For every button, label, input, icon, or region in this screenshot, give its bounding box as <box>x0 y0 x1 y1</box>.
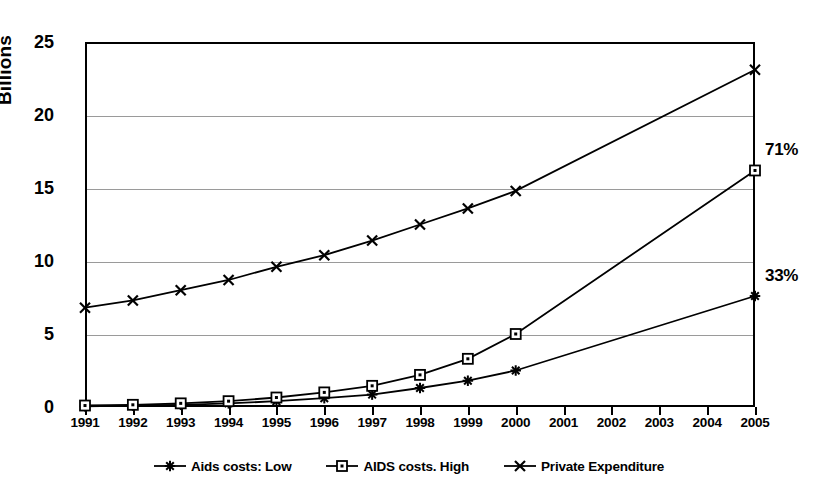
y-axis-tick-label: 20 <box>14 106 54 124</box>
y-axis-tick-label: 10 <box>14 252 54 270</box>
gridline <box>87 262 753 263</box>
x-axis-tick-mark <box>85 407 87 415</box>
legend-marker-x-icon <box>503 458 537 474</box>
x-axis-tick-mark <box>181 407 183 415</box>
plot-area <box>85 42 755 407</box>
x-axis-tick-mark <box>133 407 135 415</box>
x-axis-tick-mark <box>372 407 374 415</box>
legend-marker-square-icon <box>325 458 359 474</box>
x-axis-tick-mark <box>611 407 613 415</box>
y-axis-tick-label: 5 <box>14 325 54 343</box>
x-axis-tick-mark <box>755 407 757 415</box>
y-axis-tick-label: 15 <box>14 179 54 197</box>
x-axis-tick-mark <box>420 407 422 415</box>
data-point-marker-asterisk <box>165 461 176 472</box>
x-axis-tick-label: 2005 <box>725 415 785 430</box>
x-axis-tick-mark <box>516 407 518 415</box>
legend-item-0[interactable]: Aids costs: Low <box>153 458 292 474</box>
x-axis-tick-mark <box>229 407 231 415</box>
x-axis-tick-mark <box>564 407 566 415</box>
legend-item-1[interactable]: AIDS costs. High <box>325 458 469 474</box>
legend-marker-asterisk-icon <box>153 458 187 474</box>
legend-label: Private Expenditure <box>541 459 664 474</box>
legend-label: AIDS costs. High <box>363 459 469 474</box>
data-point-marker-square <box>337 461 347 471</box>
y-axis-tick-label: 25 <box>14 33 54 51</box>
x-axis-tick-mark <box>324 407 326 415</box>
x-axis-tick-mark <box>468 407 470 415</box>
legend-label: Aids costs: Low <box>191 459 292 474</box>
chart-figure: Billions 0510152025 19911992199319941995… <box>0 0 817 504</box>
x-axis-tick-mark <box>707 407 709 415</box>
chart-legend: Aids costs: LowAIDS costs. HighPrivate E… <box>0 458 817 474</box>
legend-item-2[interactable]: Private Expenditure <box>503 458 664 474</box>
annotation-71pct: 71% <box>765 140 798 160</box>
gridline <box>87 116 753 117</box>
x-axis-tick-mark <box>276 407 278 415</box>
x-axis-tick-mark <box>659 407 661 415</box>
y-axis-title: Billions <box>0 0 16 150</box>
y-axis-tick-label: 0 <box>14 398 54 416</box>
gridline <box>87 189 753 190</box>
annotation-33pct: 33% <box>765 266 798 286</box>
gridline <box>87 335 753 336</box>
